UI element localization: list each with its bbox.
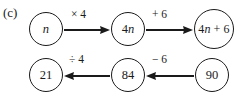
operation-label-minus-6: − 6: [152, 53, 167, 65]
node-90: 90: [195, 58, 229, 92]
function-machine-figure: (c) n × 4 4n + 6 4n + 6 21 ÷ 4 84 − 6 90: [0, 0, 239, 97]
